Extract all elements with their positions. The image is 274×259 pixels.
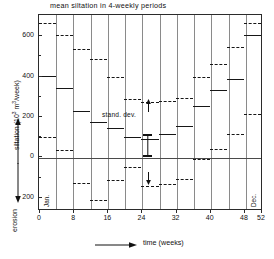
plot-area: stand. dev. Jan. Dec. [38,14,262,210]
sd-lower-segment [210,149,227,150]
y-axis-minor-tick [38,96,41,97]
mean-segment [227,79,244,80]
mean-segment [90,122,107,123]
sd-lower-segment [90,200,107,201]
sd-lower-segment [193,159,210,160]
mean-segment [176,126,193,127]
x-axis-tick-label: 0 [29,214,49,221]
mean-segment [124,137,141,138]
sd-lower-segment [141,186,158,187]
month-label-dec: Dec. [250,194,257,207]
sd-upper-segment [176,98,193,99]
y-axis-tick [38,35,42,36]
sd-lower-segment [39,137,56,138]
y-axis-tick [38,76,42,77]
sd-lower-segment [73,183,90,184]
y-axis-tick [38,197,42,198]
x-axis-tick-label: 52 [251,214,271,221]
mean-segment [107,128,124,129]
std-dev-error-bar [143,134,152,156]
sd-lower-segment [227,134,244,135]
x-axis-tick-label: 40 [200,214,220,221]
x-axis-tick [210,209,211,213]
sd-upper-segment [56,35,73,36]
mean-segment [193,106,210,107]
sd-lower-segment [124,167,141,168]
x-axis-tick-label: 24 [131,214,151,221]
x-axis-tick-label: 32 [166,214,186,221]
sd-upper-segment [107,77,124,78]
mean-segment [159,134,176,135]
error-bar-bottom-cap [143,155,152,157]
x-axis-tick-label: 16 [97,214,117,221]
error-bar-top-cap [143,134,152,136]
std-dev-up-arrow-icon [144,99,153,112]
sd-upper-segment [210,64,227,65]
time-right-arrow-icon [95,241,137,249]
mean-segment [56,88,73,89]
y-axis-title-erosion: erosion [11,209,18,232]
x-axis-tick [107,209,108,213]
sd-lower-segment [107,180,124,181]
y-axis-minor-tick [38,55,41,56]
sd-lower-segment [56,150,73,151]
x-axis-tick [73,209,74,213]
mean-segment [244,35,261,36]
month-label-jan: Jan. [43,195,50,207]
y-axis-tick-label: 200 [12,193,34,200]
sd-lower-segment [159,184,176,185]
x-axis-tick [244,209,245,213]
y-axis-tick-label: 0 [12,152,34,159]
sd-upper-segment [244,23,261,24]
sd-upper-segment [193,77,210,78]
std-dev-annotation-label: stand. dev. [102,111,136,118]
sd-upper-segment [73,49,90,50]
x-axis-tick [176,209,177,213]
x-axis-tick [261,209,262,213]
chart-title: mean siltation in 4-weekly periods [50,1,250,10]
error-bar-stem [147,134,148,156]
sd-lower-segment [244,114,261,115]
sd-upper-segment [159,101,176,102]
y-axis-tick-label: 200 [12,112,34,119]
std-dev-down-arrow-icon [144,172,153,185]
mean-segment [210,90,227,91]
x-axis-tick-label: 8 [63,214,83,221]
y-axis-minor-tick [38,136,41,137]
y-axis-tick [38,156,42,157]
y-axis-tick-label: 600 [12,31,34,38]
x-axis-title: time (weeks) [143,238,184,247]
y-axis-tick-label: 400 [12,72,34,79]
sd-upper-segment [90,59,107,60]
sd-upper-segment [124,99,141,100]
sd-upper-segment [39,23,56,24]
chart-root: mean siltation in 4-weekly periods silta… [0,0,274,259]
x-axis-tick [39,209,40,213]
sd-lower-segment [176,179,193,180]
y-axis-tick [38,116,42,117]
x-axis-tick [141,209,142,213]
mean-segment [73,111,90,112]
y-axis-minor-tick [38,177,41,178]
sd-upper-segment [227,47,244,48]
